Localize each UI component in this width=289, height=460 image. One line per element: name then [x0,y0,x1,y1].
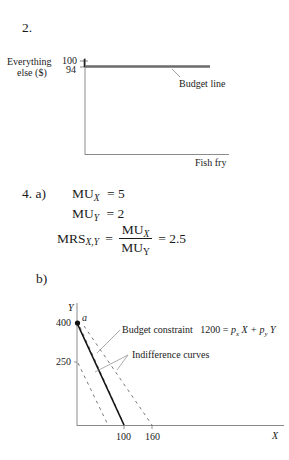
chart2-plot [0,0,289,460]
point-a [75,320,80,325]
indifference-curve-1 [78,363,108,425]
